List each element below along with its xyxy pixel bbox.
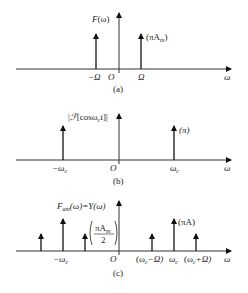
tick-neg-omega: −Ω	[88, 72, 101, 82]
impulse-amplitude-tall-label: (πA)	[178, 217, 195, 227]
tick-wc-plus-omega: (ωc+Ω)	[184, 254, 211, 265]
tick-pos-omega: Ω	[138, 72, 145, 82]
origin-label: O	[110, 254, 117, 264]
svg-text:2: 2	[101, 235, 106, 245]
impulse-amplitude-label: (π)	[179, 125, 190, 135]
panel-a: F(ω) (πAm) −Ω O Ω ω (a)	[16, 13, 231, 94]
impulse-amplitude-label: (πAm)	[146, 32, 167, 43]
tick-neg-wc: −ωc	[52, 163, 67, 174]
x-label: ω	[224, 254, 230, 264]
tick-wc-minus-omega: (ωc−Ω)	[136, 254, 163, 265]
spectrum-diagram: F(ω) (πAm) −Ω O Ω ω (a) |ℱ[cosωct]| (π) …	[0, 0, 248, 293]
caption-a: (a)	[113, 84, 123, 94]
panel-b: |ℱ[cosωct]| (π) −ωc O ωc ω (b)	[16, 112, 231, 186]
origin-label: O	[108, 72, 115, 82]
caption-c: (c)	[113, 268, 123, 278]
y-label: F(ω)	[91, 14, 109, 24]
y-label: |ℱ[cosωct]|	[68, 112, 108, 123]
origin-label: O	[110, 163, 117, 173]
x-label: ω	[224, 72, 230, 82]
impulse-amplitude-short-label: πAm 2	[90, 221, 117, 245]
tick-wc: ωc	[169, 254, 178, 265]
y-label: Fam(ω)=Y(ω)	[56, 201, 106, 212]
tick-neg-wc: −ωc	[53, 254, 68, 265]
svg-text:πAm: πAm	[95, 223, 111, 234]
tick-pos-wc: ωc	[170, 163, 179, 174]
x-label: ω	[224, 163, 230, 173]
caption-b: (b)	[113, 176, 124, 186]
panel-c: Fam(ω)=Y(ω) (πA) πAm 2 −ωc O (ωc−Ω) ωc (…	[16, 201, 231, 278]
